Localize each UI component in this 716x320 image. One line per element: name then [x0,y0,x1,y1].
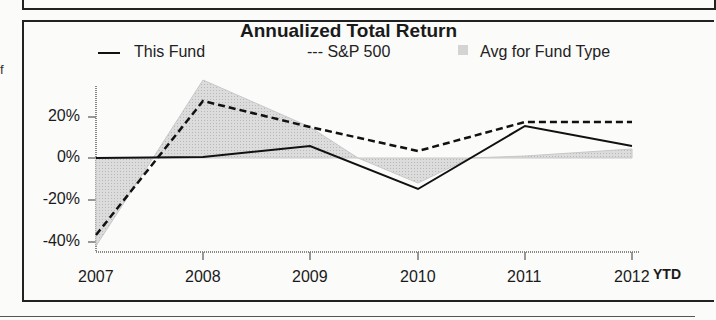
y-tick-label: 20% [30,107,80,125]
y-tick-label: 0% [30,148,80,166]
x-tick-label: 2011 [507,268,541,286]
x-tick-label: 2007 [78,268,114,286]
y-tick-label: -40% [30,232,80,250]
x-tick-label: 2010 [400,268,436,286]
y-tick-label: -20% [30,190,80,208]
x-tick-label: 2009 [292,268,328,286]
x-tick-label: 2008 [185,268,221,286]
x-tick-label: 2012 [614,268,650,286]
divider [0,316,695,317]
ytd-label: YTD [653,266,681,282]
avg-fund-type-area [96,80,632,246]
